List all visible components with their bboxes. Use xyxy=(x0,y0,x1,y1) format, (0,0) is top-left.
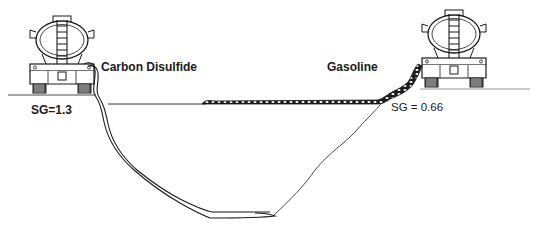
contamination-boundary xyxy=(274,100,384,215)
carbon-disulfide-label: Carbon Disulfide xyxy=(101,60,197,74)
tanker-truck-left-icon xyxy=(30,16,94,93)
carbon-disulfide-specific-gravity: SG=1.3 xyxy=(31,103,72,117)
gasoline-specific-gravity: SG = 0.66 xyxy=(391,101,443,113)
diagram-svg xyxy=(0,0,540,230)
gasoline-surface-layer xyxy=(202,64,422,104)
carbon-disulfide-plume xyxy=(84,63,275,218)
gasoline-label: Gasoline xyxy=(327,60,378,74)
tanker-truck-right-icon xyxy=(422,10,486,87)
diagram-canvas: Carbon Disulfide Gasoline SG=1.3 SG = 0.… xyxy=(0,0,540,230)
